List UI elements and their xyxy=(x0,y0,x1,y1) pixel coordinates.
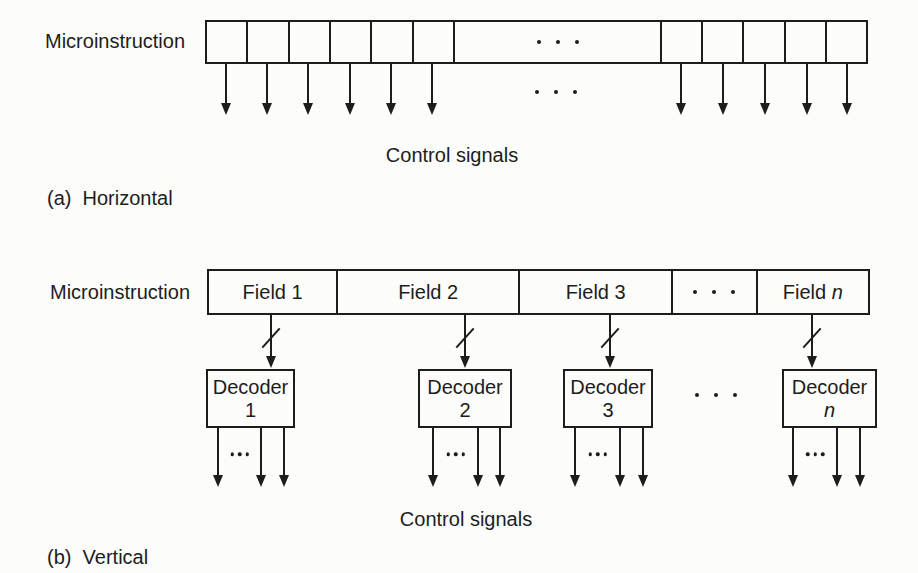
ellipsis-dot xyxy=(603,452,607,456)
ellipsis-dot xyxy=(245,452,249,456)
caption-vertical: (b) Vertical xyxy=(47,546,148,568)
arrow-shaft xyxy=(680,64,682,105)
bit-cell xyxy=(660,22,701,62)
control-signal-arrow xyxy=(494,428,506,487)
arrow-shaft xyxy=(722,64,724,105)
field-label: Field 1 xyxy=(243,281,303,304)
arrow-head xyxy=(676,103,686,115)
field-index-italic: n xyxy=(832,281,843,304)
arrow-shaft xyxy=(619,428,621,477)
arrow-shaft xyxy=(574,428,576,477)
ellipsis-dot xyxy=(238,452,242,456)
arrow-head xyxy=(615,475,625,487)
ellipsis-dot xyxy=(556,40,560,44)
arrow-head xyxy=(256,475,266,487)
bit-cell xyxy=(331,22,372,62)
control-signal-arrow xyxy=(385,64,397,115)
ellipsis-dot xyxy=(596,452,600,456)
arrow-head xyxy=(495,475,505,487)
field-section: Field 3 xyxy=(518,271,671,313)
ellipsis-dot xyxy=(446,452,450,456)
decoder-index: 3 xyxy=(602,399,613,422)
arrow-shaft xyxy=(390,64,392,105)
ellipsis-dot xyxy=(714,393,718,397)
ellipsis-dot xyxy=(573,90,577,94)
ellipsis-dot xyxy=(695,393,699,397)
arrow-head xyxy=(638,475,648,487)
control-signal-arrow xyxy=(787,428,799,487)
caption-horizontal: (a) Horizontal xyxy=(47,187,173,209)
decoder-output-ellipsis xyxy=(806,452,825,456)
bit-cell xyxy=(372,22,413,62)
microinstruction-register-vertical: Field 1Field 2Field 3Field n xyxy=(207,269,870,315)
arrow-shaft xyxy=(642,428,644,477)
arrow-head xyxy=(760,103,770,115)
control-signal-arrow xyxy=(472,428,484,487)
decoder-index: 1 xyxy=(245,399,256,422)
field-label: Field xyxy=(783,281,832,304)
control-signal-arrow xyxy=(801,64,813,115)
arrow-head xyxy=(386,103,396,115)
arrow-shaft xyxy=(266,64,268,105)
arrow-shaft xyxy=(859,428,861,477)
control-signal-arrow xyxy=(261,64,273,115)
microinstruction-label-vertical: Microinstruction xyxy=(50,281,190,303)
control-signals-label-horizontal: Control signals xyxy=(386,144,518,166)
field-ellipsis-section xyxy=(671,271,755,313)
bit-cell xyxy=(207,22,248,62)
decoder-output-ellipsis xyxy=(230,452,249,456)
decoder-box: Decoder1 xyxy=(206,369,295,428)
decoder-box: Decoder3 xyxy=(563,369,653,428)
bit-cells-left xyxy=(207,22,455,62)
ellipsis-dot xyxy=(535,90,539,94)
bit-cell xyxy=(701,22,742,62)
bit-cell xyxy=(784,22,825,62)
arrow-head xyxy=(807,356,817,368)
arrow-shaft xyxy=(432,428,434,477)
arrow-shaft xyxy=(225,64,227,105)
decoder-row-ellipsis xyxy=(695,393,737,397)
arrow-shaft xyxy=(846,64,848,105)
ellipsis-dot xyxy=(693,290,697,294)
ellipsis-dot xyxy=(230,452,234,456)
microinstruction-register-horizontal xyxy=(205,20,868,64)
ellipsis-dot xyxy=(454,452,458,456)
bit-cell xyxy=(825,22,866,62)
control-signal-arrow xyxy=(255,428,267,487)
bit-cell xyxy=(248,22,289,62)
control-signal-arrow xyxy=(637,428,649,487)
microinstruction-format-figure: Microinstruction Control signals (a) Hor… xyxy=(0,0,918,573)
bit-cells-right xyxy=(660,22,866,62)
ellipsis-dot xyxy=(588,452,592,456)
bit-cell xyxy=(742,22,783,62)
ellipsis-dot xyxy=(731,290,735,294)
arrow-head xyxy=(855,475,865,487)
control-signal-arrow xyxy=(344,64,356,115)
arrow-head xyxy=(345,103,355,115)
field-section: Field 2 xyxy=(336,271,518,313)
arrow-shaft xyxy=(477,428,479,477)
field-section: Field n xyxy=(756,271,868,313)
decoder-box: Decoder2 xyxy=(418,369,512,428)
arrow-shaft xyxy=(836,428,838,477)
control-signal-arrow xyxy=(717,64,729,115)
control-signal-arrow xyxy=(302,64,314,115)
arrow-shaft xyxy=(806,64,808,105)
arrow-head xyxy=(473,475,483,487)
arrow-shaft xyxy=(431,64,433,105)
arrow-shaft xyxy=(307,64,309,105)
decoder-label: Decoder xyxy=(570,376,646,399)
field-ellipsis xyxy=(693,290,735,294)
control-signal-arrow xyxy=(569,428,581,487)
decoder-index: 2 xyxy=(459,399,470,422)
arrow-shaft xyxy=(260,428,262,477)
ellipsis-dot xyxy=(554,90,558,94)
field-section: Field 1 xyxy=(209,271,336,313)
control-signal-arrow xyxy=(220,64,232,115)
arrow-head xyxy=(262,103,272,115)
decoder-label: Decoder xyxy=(213,376,289,399)
decoder-label: Decoder xyxy=(792,376,868,399)
bit-cell xyxy=(290,22,331,62)
arrow-head xyxy=(213,475,223,487)
bar-ellipsis xyxy=(537,40,579,44)
